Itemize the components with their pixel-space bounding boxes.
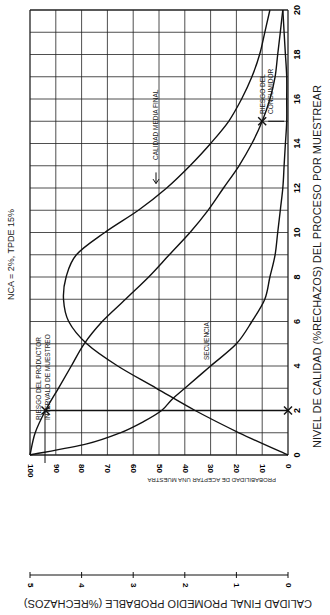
svg-text:18: 18 <box>292 49 302 59</box>
svg-text:5: 5 <box>26 583 35 588</box>
svg-text:80: 80 <box>77 464 86 473</box>
markers <box>41 117 292 463</box>
svg-text:20: 20 <box>292 5 302 15</box>
y-axis-right-label: CALIDAD FINAL PROMEDIO PROBABLE (%RECHAZ… <box>24 598 312 610</box>
svg-text:6: 6 <box>292 319 302 324</box>
svg-text:2: 2 <box>181 583 190 588</box>
annotation-aoq: CALIDAD MEDIA FINAL <box>152 90 159 160</box>
plot-grid <box>30 10 288 455</box>
chart-title: NCA = 2%, TPDE 15% <box>6 209 16 300</box>
svg-text:10: 10 <box>292 227 302 237</box>
svg-text:16: 16 <box>292 94 302 104</box>
svg-text:4: 4 <box>292 363 302 368</box>
svg-text:90: 90 <box>52 464 61 473</box>
svg-text:12: 12 <box>292 183 302 193</box>
svg-text:4: 4 <box>77 583 86 588</box>
svg-text:0: 0 <box>284 464 293 469</box>
svg-text:60: 60 <box>129 464 138 473</box>
svg-text:1: 1 <box>232 583 241 588</box>
y-axis-left-label: PROBABILIDAD DE ACEPTAR UNA MUESTRA <box>147 477 276 483</box>
svg-text:30: 30 <box>206 464 215 473</box>
oc-chart: 0246810121416182001020304050607080901000… <box>0 0 330 615</box>
svg-text:0: 0 <box>292 452 302 457</box>
svg-text:3: 3 <box>129 583 138 588</box>
svg-text:20: 20 <box>232 464 241 473</box>
annotation-producer-risk: RIESGO DEL PRODUCTOR <box>35 337 42 420</box>
svg-text:40: 40 <box>181 464 190 473</box>
svg-text:70: 70 <box>103 464 112 473</box>
svg-text:8: 8 <box>292 274 302 279</box>
svg-text:0: 0 <box>284 583 293 588</box>
annotation-asn: SECUENCIA <box>203 322 210 360</box>
annotation-consumer-risk-1: RIESGO DEL <box>259 74 266 114</box>
svg-text:50: 50 <box>155 464 164 473</box>
svg-text:10: 10 <box>258 464 267 473</box>
x-axis-label: NIVEL DE CALIDAD (%RECHAZOS) DEL PROCESO… <box>311 85 323 448</box>
annotation-consumer-risk-2: CONSUMIDOR <box>267 69 274 114</box>
annotation-sampling-interval: INTERVALO DE MUESTREO <box>44 334 51 420</box>
svg-text:14: 14 <box>292 138 302 148</box>
svg-text:2: 2 <box>292 408 302 413</box>
svg-text:100: 100 <box>26 464 35 478</box>
